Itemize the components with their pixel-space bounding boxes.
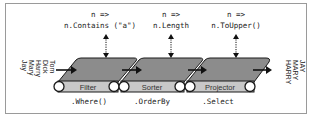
roller-icon [109,82,119,92]
roller-icon [54,82,64,92]
input-item: Dick [42,60,49,74]
input-item: Jay [20,60,28,71]
operator-where: .Where() [71,97,107,106]
operator-orderby: .OrderBy [134,97,171,106]
lambda-body: n.Length [153,21,189,30]
roller-icon [245,82,255,92]
lambda-param: n => [227,10,246,19]
lambda-param: n => [91,10,110,19]
arrow-down-icon [103,53,109,58]
arrow-up-icon [233,34,239,39]
input-item: Tom [49,60,56,73]
stage-name-filter: Filter [80,83,97,92]
stage-name-projector: Projector [205,83,236,92]
roller-icon [185,82,195,92]
stage-projector-lambda: n => n.ToUpper() [211,10,261,30]
output-items: JAY MARY HARRY [285,60,306,85]
input-items: Tom Dick Harry Mary Jay [20,60,56,78]
pipeline-diagram: n => n.Contains ("a") n => n.Length n =>… [0,0,313,119]
arrow-up-icon [103,34,109,39]
output-item: MARY [292,60,299,80]
lambda-param: n => [162,10,181,19]
operator-select: .Select [202,97,234,106]
arrow-down-icon [233,53,239,58]
arrowheads [103,34,239,58]
stage-sorter-lambda: n => n.Length [153,10,189,30]
roller-icon [119,82,129,92]
lambda-body: n.ToUpper() [211,21,261,30]
dotted-connector-icons [106,37,236,55]
stage-filter-lambda: n => n.Contains ("a") [64,10,136,30]
lambda-body: n.Contains ("a") [64,21,136,30]
arrow-down-icon [168,53,174,58]
arrow-up-icon [168,34,174,39]
output-item: HARRY [285,60,292,85]
stage-name-sorter: Sorter [142,83,163,92]
output-item: JAY [299,60,306,73]
roller-icon [175,82,185,92]
